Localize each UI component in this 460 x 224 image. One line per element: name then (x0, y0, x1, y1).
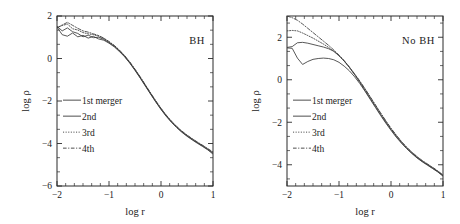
x-tick-label: 0 (159, 190, 164, 200)
curve-2nd (287, 42, 443, 175)
x-tick-label: 0 (389, 190, 394, 200)
legend: 1st merger2nd3rd4th (63, 96, 123, 154)
legend-label-3rd: 3rd (312, 128, 325, 138)
x-tick-label: −1 (104, 190, 114, 200)
legend-label-4th: 4th (312, 144, 324, 154)
x-tick-label: −1 (334, 190, 344, 200)
panel-no-bh: −2−101−4−202log rlog ρNo BH1st merger2nd… (230, 0, 460, 224)
legend-label-1st-merger: 1st merger (312, 96, 353, 106)
panel-annotation: BH (189, 35, 205, 46)
y-tick-label: −2 (272, 118, 282, 128)
x-tick-label: 1 (441, 190, 446, 200)
legend-label-2nd: 2nd (312, 112, 327, 122)
y-tick-label: 0 (277, 75, 282, 85)
x-tick-label: −2 (52, 190, 62, 200)
y-tick-label: −6 (42, 181, 52, 191)
panel-annotation: No BH (402, 35, 435, 46)
panel-no-bh-canvas: −2−101−4−202log rlog ρNo BH1st merger2nd… (230, 0, 460, 224)
y-tick-label: −2 (42, 96, 52, 106)
y-tick-label: 2 (277, 33, 282, 43)
legend-label-1st-merger: 1st merger (82, 96, 123, 106)
plot-nobh: −2−101−4−202log rlog ρNo BH1st merger2nd… (230, 0, 460, 224)
y-axis-title: log ρ (20, 90, 31, 111)
y-tick-label: 2 (47, 11, 52, 21)
legend: 1st merger2nd3rd4th (293, 96, 353, 154)
plot-bh: −2−101−6−4−202log rlog ρBH1st merger2nd3… (0, 0, 230, 224)
x-tick-label: −2 (282, 190, 292, 200)
legend-label-3rd: 3rd (82, 128, 95, 138)
curve-1st-merger (57, 27, 213, 154)
legend-label-4th: 4th (82, 144, 94, 154)
x-axis-title: log r (125, 206, 145, 217)
panel-bh: −2−101−6−4−202log rlog ρBH1st merger2nd3… (0, 0, 230, 224)
x-axis-title: log r (355, 206, 375, 217)
curve-1st-merger (287, 48, 443, 176)
legend-label-2nd: 2nd (82, 112, 97, 122)
curve-3rd (287, 30, 443, 175)
y-axis-title: log ρ (250, 90, 261, 111)
panel-bh-canvas: −2−101−6−4−202log rlog ρBH1st merger2nd3… (0, 0, 230, 224)
y-tick-label: −4 (42, 139, 52, 149)
figure: −2−101−6−4−202log rlog ρBH1st merger2nd3… (0, 0, 460, 224)
y-tick-label: −4 (272, 160, 282, 170)
x-tick-label: 1 (211, 190, 216, 200)
y-tick-label: 0 (47, 54, 52, 64)
